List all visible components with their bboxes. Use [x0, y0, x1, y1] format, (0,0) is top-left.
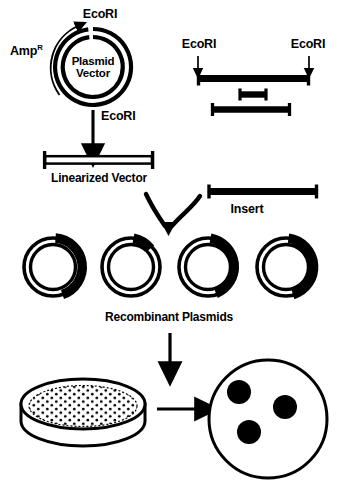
cloning-diagram-figure: EcoRI AmpR Plasmid Vector EcoRI Lineariz… — [0, 0, 338, 485]
amp-text: Amp — [10, 44, 37, 58]
label-amp-resistance: AmpR — [10, 44, 43, 58]
linearized-vector-graphic — [45, 151, 153, 169]
recombinant-plasmid-1 — [24, 238, 82, 296]
plasmid-1-inner-thin-ring — [31, 245, 76, 290]
bacterial-colony — [273, 395, 297, 419]
recombinant-plasmid-2 — [102, 238, 160, 296]
linearized-vector-bar — [45, 156, 152, 163]
label-recombinant-plasmids: Recombinant Plasmids — [105, 311, 233, 324]
label-insert: Insert — [231, 203, 264, 216]
recombinant-plasmid-4 — [257, 238, 315, 296]
colony-plate — [209, 360, 327, 478]
bacterial-colony — [237, 420, 261, 444]
insert-graphic — [209, 185, 317, 199]
label-linearized-vector: Linearized Vector — [51, 172, 147, 185]
diagram-canvas — [0, 0, 338, 485]
ligation-arrow-left — [146, 194, 165, 226]
amp-superscript: R — [37, 43, 42, 52]
label-digest-ecori: EcoRI — [101, 110, 135, 123]
colony-plate-outline — [209, 360, 327, 478]
label-plasmid-ecori-top: EcoRI — [83, 8, 117, 21]
label-plasmid-vector: Plasmid Vector — [72, 55, 115, 79]
label-genomic-ecori-right: EcoRI — [291, 38, 325, 51]
plasmid-4-inner-thin-ring — [264, 245, 309, 290]
bacterial-colony — [227, 380, 251, 404]
ligation-arrows — [146, 194, 200, 236]
ligation-arrowhead — [161, 222, 176, 236]
plasmid-vector-line-1: Plasmid — [72, 55, 115, 67]
bacterial-lawn-petri-dish — [21, 379, 145, 446]
recombinant-plasmid-3 — [179, 238, 237, 296]
bacterial-lawn-surface — [29, 386, 137, 427]
plasmid-vector-line-2: Vector — [72, 67, 115, 79]
ligation-arrow-right — [172, 196, 200, 226]
label-genomic-ecori-left: EcoRI — [182, 38, 216, 51]
genomic-dna-graphic — [198, 56, 309, 116]
